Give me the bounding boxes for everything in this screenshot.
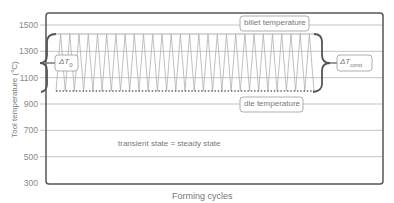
x-axis-label: Forming cycles	[172, 191, 233, 201]
svg-text:1500: 1500	[19, 20, 38, 30]
svg-text:1100: 1100	[20, 73, 39, 83]
dtconst-sub: const	[350, 62, 362, 68]
dt0-main: ΔT	[59, 57, 69, 66]
chart-svg: 300500700900110013001500	[0, 0, 394, 203]
y-axis-ticks: 300500700900110013001500	[19, 20, 38, 188]
plot-frame	[46, 13, 383, 184]
zigzag-series	[56, 34, 314, 91]
svg-text:500: 500	[24, 152, 38, 162]
state-annotation: transient state = steady state	[118, 139, 221, 148]
billet-temperature-label: billet temperature	[244, 18, 306, 27]
y-axis-label: Tool temperature (°C)	[10, 50, 19, 150]
svg-text:900: 900	[24, 99, 38, 109]
dtconst-label: ΔTconst	[340, 57, 362, 68]
die-temperature-label: die temperature	[244, 99, 300, 108]
svg-text:700: 700	[24, 125, 38, 135]
svg-text:1300: 1300	[19, 46, 38, 56]
right-brace	[313, 34, 330, 92]
dt0-label: ΔT0	[59, 57, 73, 68]
dtconst-main: ΔT	[340, 57, 350, 66]
svg-text:300: 300	[24, 178, 38, 188]
dt0-sub: 0	[69, 62, 72, 68]
